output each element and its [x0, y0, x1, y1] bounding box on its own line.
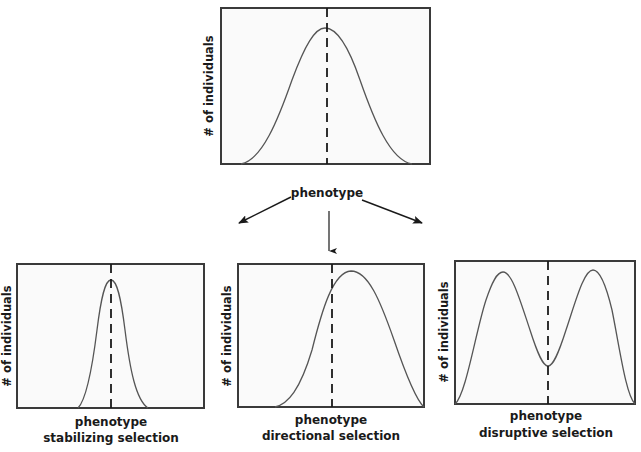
directional-plot-frame [238, 264, 424, 407]
disruptive-panel: # of individuals phenotype disruptive se… [437, 261, 635, 440]
arrow-to-stabilizing [239, 197, 291, 223]
disruptive-ylabel: # of individuals [437, 281, 451, 382]
top-xlabel: phenotype [291, 186, 363, 200]
stabilizing-caption: stabilizing selection [43, 431, 179, 445]
directional-ylabel: # of individuals [220, 285, 234, 386]
selection-diagram: # of individuals phenotype # of individu… [0, 0, 641, 452]
directional-panel: # of individuals phenotype directional s… [220, 264, 424, 443]
stabilizing-ylabel: # of individuals [0, 285, 14, 386]
selection-arrows [239, 197, 422, 251]
directional-caption: directional selection [262, 429, 400, 443]
stabilizing-xlabel: phenotype [75, 415, 147, 429]
disruptive-caption: disruptive selection [479, 426, 613, 440]
top-panel: # of individuals phenotype [202, 8, 430, 200]
stabilizing-panel: # of individuals phenotype stabilizing s… [0, 264, 204, 445]
top-plot-frame [221, 8, 430, 164]
disruptive-plot-frame [455, 261, 635, 404]
arrow-to-disruptive [362, 200, 422, 223]
disruptive-xlabel: phenotype [510, 409, 582, 423]
top-ylabel: # of individuals [202, 35, 216, 136]
directional-xlabel: phenotype [295, 413, 367, 427]
